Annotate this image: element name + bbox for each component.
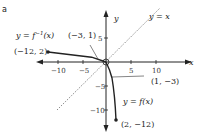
y-axis-up-arrow-icon (104, 10, 109, 17)
pointer-1-minus3 (112, 76, 144, 77)
label-point-minus3-1: (−3, 1) (68, 31, 96, 40)
function-curve (106, 62, 116, 120)
tick-y-minus5: −5 (95, 83, 105, 91)
function-label: y = f(x) (122, 97, 153, 106)
y-axis-down-arrow-icon (104, 125, 109, 132)
function-inverse-chart: a −10 −5 5 10 5 −5 −10 y x y = x y = (0, 0, 197, 135)
label-point-1-minus3: (1, −3) (151, 77, 179, 86)
tick-x-minus10: −10 (51, 67, 66, 75)
tick-x-10: 10 (152, 67, 161, 75)
inverse-function-curve (48, 52, 106, 62)
label-point-minus12-2: (−12, 2) (14, 47, 47, 56)
tick-y-minus10: −10 (90, 107, 105, 115)
tick-x-minus5: −5 (79, 67, 89, 75)
label-point-2-minus12: (2, −12) (121, 120, 154, 129)
tick-x-5: 5 (129, 67, 133, 75)
point-2-minus12 (114, 118, 118, 122)
inverse-function-label: y = f−1(x) (15, 30, 54, 40)
x-axis-left-arrow-icon (36, 60, 43, 65)
identity-line (57, 8, 160, 110)
y-axis-label: y (113, 14, 119, 23)
x-axis-label: x (189, 58, 194, 67)
tick-y-5: 5 (98, 35, 102, 43)
panel-label: a (2, 5, 7, 14)
identity-label: y = x (148, 12, 170, 21)
